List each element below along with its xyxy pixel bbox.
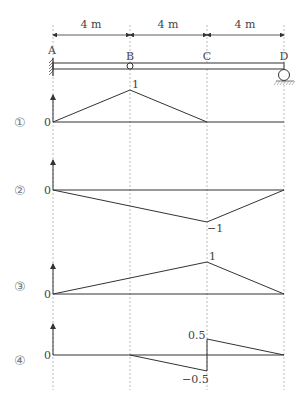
influence-line-3 — [53, 262, 284, 294]
point-label-c: C — [203, 50, 211, 63]
point-label-a: A — [47, 44, 57, 57]
span-label-ab: 4 m — [81, 18, 102, 31]
influence-line-4 — [53, 324, 284, 371]
zero-label-1: 0 — [44, 116, 51, 129]
fixed-support-icon — [49, 58, 53, 76]
guide-lines — [53, 25, 284, 390]
span-label-cd: 4 m — [235, 18, 256, 31]
span-label-bc: 4 m — [158, 18, 179, 31]
hinge-icon — [127, 63, 133, 69]
zero-label-2: 0 — [44, 184, 51, 197]
peak-label-2: −1 — [207, 222, 223, 235]
peak-label-3: 1 — [209, 250, 216, 263]
upper-label-4: 0.5 — [188, 329, 206, 342]
point-label-d: D — [280, 50, 289, 63]
roller-support-icon — [274, 70, 295, 86]
diagram-label-3: ③ — [14, 279, 26, 294]
zero-label-4: 0 — [44, 349, 51, 362]
peak-label-1: 1 — [132, 78, 139, 91]
diagram-label-1: ① — [14, 115, 26, 130]
influence-line-2 — [53, 160, 284, 222]
influence-line-diagram: 4 m 4 m 4 m A B C D ① 0 1 — [0, 0, 307, 405]
diagram-label-2: ② — [14, 183, 26, 198]
diagram-label-4: ④ — [14, 353, 26, 368]
influence-line-1 — [53, 90, 284, 122]
beam — [53, 63, 284, 69]
point-label-b: B — [126, 50, 134, 63]
lower-label-4: −0.5 — [182, 373, 209, 386]
zero-label-3: 0 — [44, 288, 51, 301]
